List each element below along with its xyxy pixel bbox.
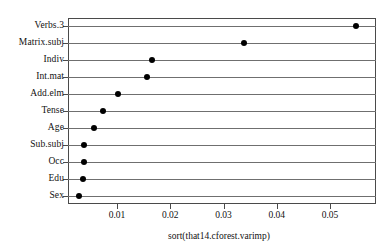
y-axis-label-occ: Occ [48,157,64,167]
data-point-add-elm [115,91,121,97]
x-axis-tick-0.04 [277,204,278,209]
y-axis-label-int-mat: Int.mat [36,72,64,82]
data-point-sex [76,193,82,199]
x-axis-tick-label-0.05: 0.05 [322,211,339,221]
x-axis-tick-0.02 [170,204,171,209]
x-axis-tick-label-0.01: 0.01 [109,211,126,221]
gridline-indiv [68,60,376,61]
y-axis-label-age: Age [48,123,64,133]
y-axis-label-sex: Sex [49,191,64,201]
gridline-matrix-subj [68,43,376,44]
data-point-edu [80,176,86,182]
y-axis-label-verbs-3: Verbs.3 [35,22,64,32]
gridline-age [68,128,376,129]
gridline-tense [68,111,376,112]
x-axis-tick-0.03 [224,204,225,209]
y-axis-label-add-elm: Add.elm [30,89,64,99]
gridline-occ [68,162,376,163]
x-axis-title: sort(that14.cforest.varimp) [0,232,386,242]
y-axis-label-sub-subj: Sub.subj [30,140,64,150]
gridline-edu [68,179,376,180]
gridline-int-mat [68,77,376,78]
x-axis-tick-label-0.02: 0.02 [162,211,179,221]
y-axis-label-indiv: Indiv [43,56,64,66]
x-axis-tick-label-0.04: 0.04 [268,211,285,221]
data-point-age [91,125,97,131]
gridline-sex [68,196,376,197]
variable-importance-dotplot: Verbs.3Matrix.subjIndivInt.matAdd.elmTen… [0,0,386,252]
y-axis-label-matrix-subj: Matrix.subj [19,39,64,49]
x-axis-tick-0.01 [117,204,118,209]
gridline-sub-subj [68,145,376,146]
gridline-verbs-3 [68,26,376,27]
data-point-tense [100,108,106,114]
data-point-occ [81,159,87,165]
x-axis-tick-0.05 [330,204,331,209]
data-point-sub-subj [81,142,87,148]
data-point-int-mat [144,74,150,80]
x-axis-tick-label-0.03: 0.03 [215,211,232,221]
y-axis-label-tense: Tense [41,106,64,116]
y-axis-label-edu: Edu [48,174,64,184]
